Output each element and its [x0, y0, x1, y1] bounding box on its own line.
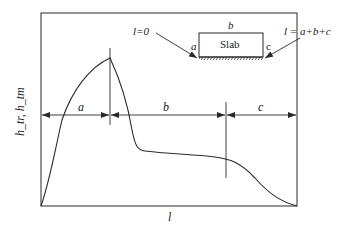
y-axis-label: h_tr, h_tm [14, 100, 26, 136]
end-annotation: l = a+b+c [284, 26, 331, 37]
slab-label: Slab [220, 39, 240, 50]
segment-label-c: c [258, 101, 263, 113]
thickness-profile-curve [41, 58, 297, 206]
inset-right-label: c [266, 41, 271, 52]
x-axis-label: l [168, 211, 171, 223]
inset-top-label: b [228, 20, 234, 31]
inset-left-label: a [191, 41, 197, 52]
start-annotation: l=0 [133, 26, 149, 37]
segment-label-b: b [163, 101, 169, 113]
segment-label-a: a [78, 101, 84, 113]
